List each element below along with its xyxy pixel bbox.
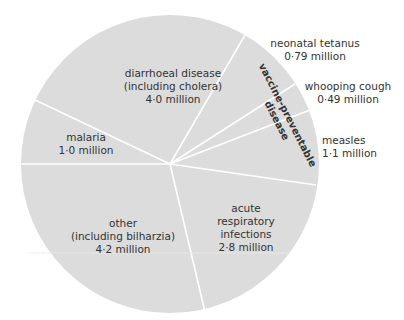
label-line: diarrhoeal disease bbox=[98, 67, 248, 80]
label-line: whooping cough bbox=[296, 80, 400, 93]
label-line: (including cholera) bbox=[98, 80, 248, 93]
label-other: other (including bilharzia) 4·2 million bbox=[58, 217, 188, 256]
label-malaria: malaria 1·0 million bbox=[46, 131, 126, 157]
label-acute-respiratory-infections: acute respiratory infections 2·8 million bbox=[196, 202, 296, 254]
label-line: 2·8 million bbox=[196, 241, 296, 254]
label-line: measles bbox=[322, 134, 377, 147]
label-line: infections bbox=[196, 228, 296, 241]
label-neonatal-tetanus: neonatal tetanus 0·79 million bbox=[260, 37, 370, 63]
label-whooping-cough: whooping cough 0·49 million bbox=[296, 80, 400, 106]
label-line: 0·49 million bbox=[296, 93, 400, 106]
label-line: neonatal tetanus bbox=[260, 37, 370, 50]
label-line: 4·2 million bbox=[58, 243, 188, 256]
label-line: 1·0 million bbox=[46, 144, 126, 157]
label-line: (including bilharzia) bbox=[58, 230, 188, 243]
label-line: acute bbox=[196, 202, 296, 215]
label-line: 1·1 million bbox=[322, 147, 377, 160]
label-diarrhoeal-disease: diarrhoeal disease (including cholera) 4… bbox=[98, 67, 248, 106]
label-line: 0·79 million bbox=[260, 50, 370, 63]
label-line: malaria bbox=[46, 131, 126, 144]
label-measles: measles 1·1 million bbox=[322, 134, 377, 160]
label-line: respiratory bbox=[196, 215, 296, 228]
label-line: other bbox=[58, 217, 188, 230]
label-line: 4·0 million bbox=[98, 93, 248, 106]
